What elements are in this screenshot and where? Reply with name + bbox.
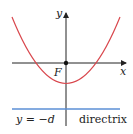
directrix-label: directrix xyxy=(79,114,127,125)
x-axis-label: x xyxy=(120,66,126,77)
parabola-diagram: y x F y = −d directrix xyxy=(0,0,133,134)
focus-point xyxy=(64,61,68,65)
directrix-equation-label: y = −d xyxy=(16,114,55,125)
focus-label: F xyxy=(54,67,62,78)
y-axis-label: y xyxy=(56,8,62,19)
